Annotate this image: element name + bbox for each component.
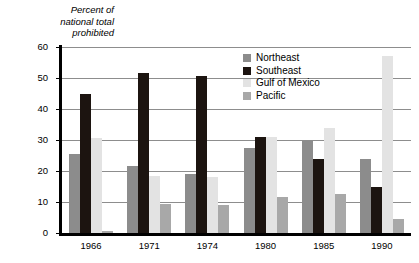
x-axis-tick-label: 1980 xyxy=(240,240,292,251)
bar xyxy=(255,137,266,233)
y-axis-tick-labels: 6050403020100 xyxy=(22,47,48,233)
y-axis-tick xyxy=(56,233,61,234)
x-axis-line xyxy=(59,233,411,236)
legend-swatch-icon xyxy=(243,92,251,100)
legend-swatch-icon xyxy=(243,54,251,62)
bar xyxy=(127,166,138,233)
legend-item-label: Gulf of Mexico xyxy=(256,78,320,88)
legend-item: Northeast xyxy=(243,52,363,65)
legend-swatch-icon xyxy=(243,79,251,87)
bar xyxy=(138,73,149,233)
bar xyxy=(335,194,346,233)
bar xyxy=(196,76,207,233)
x-axis-tick-label: 1966 xyxy=(65,240,117,251)
y-axis-tick xyxy=(56,140,61,141)
legend-item-label: Pacific xyxy=(256,91,285,101)
chart-legend: NortheastSoutheastGulf of MexicoPacific xyxy=(243,52,363,102)
bar xyxy=(102,231,113,233)
bar xyxy=(313,159,324,233)
bar xyxy=(371,187,382,234)
bar xyxy=(324,128,335,233)
bar xyxy=(80,94,91,234)
bar xyxy=(393,219,404,233)
y-axis-tick-label: 0 xyxy=(22,228,48,238)
y-axis-tick xyxy=(56,171,61,172)
y-axis-tick xyxy=(56,47,61,48)
x-axis-tick-label: 1971 xyxy=(123,240,175,251)
legend-item-label: Northeast xyxy=(256,53,299,63)
y-axis-tick xyxy=(56,78,61,79)
legend-item: Southeast xyxy=(243,65,363,78)
bar xyxy=(149,176,160,233)
bar xyxy=(360,159,371,233)
x-axis-tick-label: 1990 xyxy=(356,240,408,251)
bar xyxy=(382,56,393,233)
y-axis-tick-label: 50 xyxy=(22,73,48,83)
bar-group xyxy=(69,47,113,233)
bar-group xyxy=(185,47,229,233)
y-axis-tick xyxy=(56,202,61,203)
y-axis-tick-label: 40 xyxy=(22,104,48,114)
y-axis-tick-label: 20 xyxy=(22,166,48,176)
bar xyxy=(302,140,313,233)
legend-item: Pacific xyxy=(243,90,363,103)
bar xyxy=(160,204,171,233)
legend-item: Gulf of Mexico xyxy=(243,77,363,90)
y-axis-title: Percent of national total prohibited xyxy=(2,4,114,39)
x-axis-tick-label: 1974 xyxy=(181,240,233,251)
x-axis-tick-label: 1985 xyxy=(298,240,350,251)
legend-swatch-icon xyxy=(243,67,251,75)
y-axis-tick xyxy=(56,109,61,110)
bar xyxy=(244,148,255,233)
bar xyxy=(185,174,196,233)
bar xyxy=(69,154,80,233)
bar xyxy=(218,205,229,233)
bar-group xyxy=(360,47,404,233)
bar xyxy=(266,137,277,233)
legend-item-label: Southeast xyxy=(256,66,301,76)
y-axis-tick-label: 10 xyxy=(22,197,48,207)
y-axis-tick-label: 30 xyxy=(22,135,48,145)
y-axis-tick-label: 60 xyxy=(22,42,48,52)
x-axis-tick-labels: 196619711974198019851990 xyxy=(62,240,411,254)
bar xyxy=(277,197,288,233)
bar-group xyxy=(127,47,171,233)
bar xyxy=(207,177,218,233)
bar xyxy=(91,138,102,233)
